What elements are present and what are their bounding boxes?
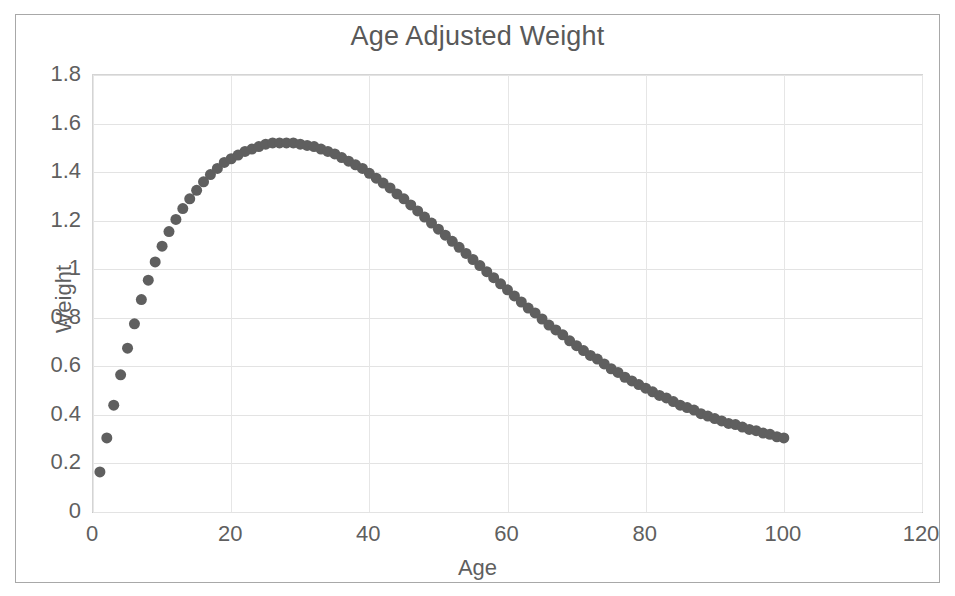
data-point-marker: [191, 185, 202, 196]
data-point-marker: [184, 193, 195, 204]
x-tick-label: 20: [195, 521, 265, 547]
chart-title: Age Adjusted Weight: [16, 21, 939, 52]
data-point-marker: [170, 214, 181, 225]
y-tick-label: 1.4: [21, 158, 81, 184]
y-tick-label: 0.6: [21, 352, 81, 378]
data-point-marker: [177, 203, 188, 214]
chart-frame: Age Adjusted Weight Weight Age 00.20.40.…: [15, 14, 940, 583]
x-axis-title: Age: [16, 555, 939, 581]
data-point-marker: [163, 226, 174, 237]
y-tick-label: 0.4: [21, 401, 81, 427]
data-point-marker: [150, 256, 161, 267]
x-tick-label: 40: [333, 521, 403, 547]
data-point-marker: [122, 343, 133, 354]
data-point-marker: [108, 400, 119, 411]
data-point-marker: [129, 318, 140, 329]
gridline-vertical: [922, 75, 923, 512]
data-point-marker: [143, 275, 154, 286]
y-tick-label: 1: [21, 255, 81, 281]
x-tick-label: 0: [57, 521, 127, 547]
x-tick-label: 60: [472, 521, 542, 547]
data-series-markers: [93, 75, 922, 512]
data-point-marker: [136, 294, 147, 305]
x-tick-label: 100: [748, 521, 818, 547]
data-point-marker: [101, 432, 112, 443]
y-tick-label: 1.6: [21, 110, 81, 136]
data-point-marker: [157, 241, 168, 252]
data-point-marker: [778, 432, 789, 443]
data-point-marker: [115, 369, 126, 380]
y-tick-label: 0.8: [21, 304, 81, 330]
y-tick-label: 0.2: [21, 449, 81, 475]
gridline-horizontal: [93, 512, 922, 513]
y-tick-label: 1.2: [21, 207, 81, 233]
x-tick-label: 120: [886, 521, 955, 547]
x-tick-label: 80: [610, 521, 680, 547]
data-point-marker: [94, 466, 105, 477]
y-tick-label: 1.8: [21, 61, 81, 87]
plot-area: [92, 74, 923, 513]
